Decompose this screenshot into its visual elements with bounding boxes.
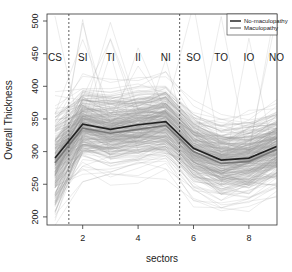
y-tick-label: 450 — [30, 46, 40, 61]
x-tick-label: 8 — [246, 233, 251, 243]
x-tick-label: 6 — [191, 233, 196, 243]
spaghetti-line-chart: CSSITIIINISOTOIONO 200250300350400450500… — [0, 0, 292, 272]
legend-label: No-maculopathy — [244, 18, 288, 24]
legend-label: Maculopathy — [244, 25, 278, 31]
sector-label: SI — [78, 52, 87, 63]
x-tick-label: 2 — [80, 233, 85, 243]
y-tick-label: 350 — [30, 111, 40, 126]
y-tick-label: 300 — [30, 144, 40, 159]
sector-label: NI — [161, 52, 171, 63]
x-tick-label: 4 — [136, 233, 141, 243]
y-tick-label: 400 — [30, 79, 40, 94]
x-axis: 2468 — [80, 225, 251, 243]
sector-label: II — [135, 52, 141, 63]
y-axis: 200250300350400450500 — [30, 13, 47, 224]
y-axis-title: Overall Thickness — [3, 80, 14, 159]
sector-label: CS — [48, 52, 62, 63]
sector-labels: CSSITIIINISOTOIONO — [48, 52, 284, 63]
legend: No-maculopathyMaculopathy — [227, 14, 288, 35]
y-tick-label: 500 — [30, 13, 40, 28]
sector-label: IO — [244, 52, 255, 63]
sector-label: SO — [186, 52, 201, 63]
y-tick-label: 200 — [30, 209, 40, 224]
sector-label: TI — [106, 52, 115, 63]
sector-label: TO — [214, 52, 228, 63]
x-axis-title: sectors — [146, 253, 178, 264]
y-tick-label: 250 — [30, 177, 40, 192]
sector-label: NO — [269, 52, 284, 63]
